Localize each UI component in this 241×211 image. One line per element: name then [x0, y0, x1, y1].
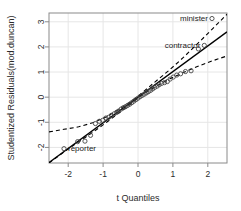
figure-background [0, 0, 241, 211]
y-tick-label: 2 [36, 44, 46, 49]
point-label-reporter: reporter [68, 144, 96, 153]
y-axis-label: Studentized Residuals(mod.duncan) [6, 15, 16, 160]
point-label-minister: minister [180, 14, 208, 23]
x-tick-label: 2 [205, 169, 210, 179]
x-tick-label: 0 [136, 169, 141, 179]
y-tick-label: -2 [36, 143, 46, 151]
y-tick-label: 0 [36, 95, 46, 100]
qq-plot-canvas: ministercontractorreporter -2-1012-2-101… [0, 0, 241, 211]
qq-plot-figure: ministercontractorreporter -2-1012-2-101… [0, 0, 241, 211]
y-tick-label: 1 [36, 69, 46, 74]
point-label-contractor: contractor [165, 41, 201, 50]
x-axis-label: t Quantiles [116, 193, 160, 203]
x-tick-label: 1 [171, 169, 176, 179]
y-tick-label: 3 [36, 19, 46, 24]
y-tick-label: -1 [36, 118, 46, 126]
x-tick-label: -2 [64, 169, 72, 179]
x-tick-label: -1 [99, 169, 107, 179]
